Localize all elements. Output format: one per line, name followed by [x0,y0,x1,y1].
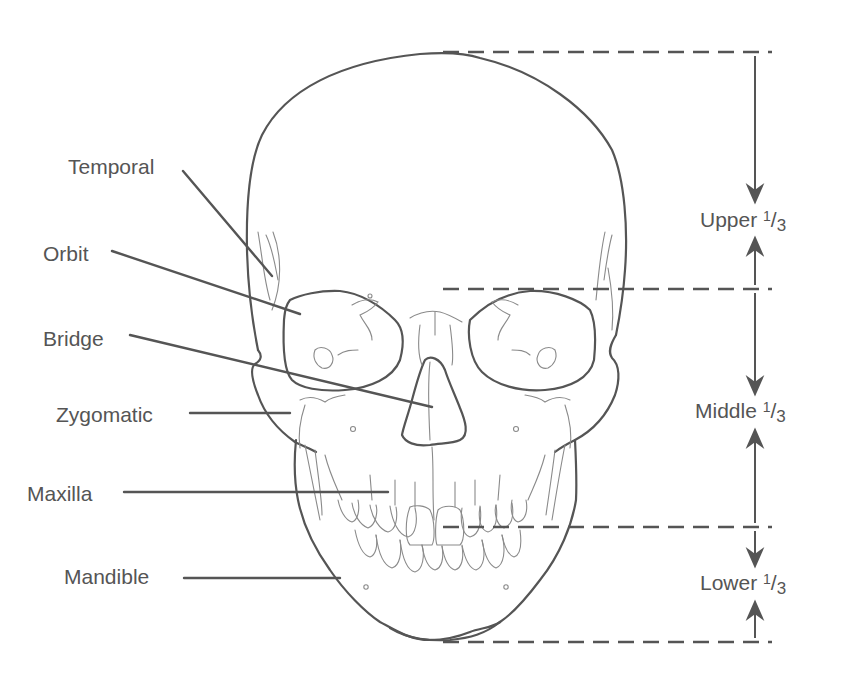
right-cheek-outline [555,335,618,452]
label-lower-third: Lower 1/3 [700,572,786,593]
middle-third-denominator: 3 [776,407,785,426]
skull-facial-thirds-diagram: Temporal Orbit Bridge Zygomatic Maxilla … [0,0,846,678]
label-orbit: Orbit [43,243,89,264]
upper-third-word: Upper [700,208,757,231]
upper-third-denominator: 3 [777,216,786,235]
label-middle-third: Middle 1/3 [695,400,786,421]
leader-line-temporal [183,171,272,276]
label-mandible: Mandible [64,566,149,587]
thirds-arrows [748,56,762,638]
upper-third-numerator: 1 [763,208,771,224]
label-maxilla: Maxilla [27,483,92,504]
leader-line-orbit [112,251,300,314]
label-zygomatic: Zygomatic [56,404,153,425]
mandible-left-outline [295,440,500,640]
label-temporal: Temporal [68,156,154,177]
lower-third-denominator: 3 [777,579,786,598]
leader-lines [112,171,432,578]
middle-third-numerator: 1 [763,399,771,415]
label-upper-third: Upper 1/3 [700,209,786,230]
chin-outline [390,622,500,640]
mandible-right-outline [500,440,576,622]
fraction-slash: / [771,571,777,594]
fraction-slash: / [771,208,777,231]
lower-third-word: Lower [700,571,757,594]
right-orbit-outline [469,291,595,390]
leader-line-bridge [130,335,432,407]
lower-third-numerator: 1 [763,571,771,587]
cranium-outline [247,53,626,350]
middle-third-word: Middle [695,399,757,422]
label-bridge: Bridge [43,328,104,349]
